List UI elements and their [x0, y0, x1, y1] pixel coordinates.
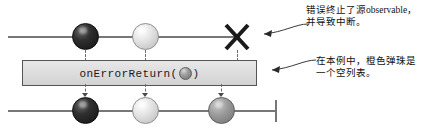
completion-bar: [275, 100, 277, 122]
result-marble-orange: [208, 97, 235, 124]
operator-label-suffix: ): [193, 68, 200, 80]
error-note-line-1: 错误终止了源observable，: [306, 4, 417, 16]
source-marble-light: [132, 23, 159, 50]
operator-label: onErrorReturn(): [79, 67, 199, 80]
error-note-leader-line: [250, 22, 310, 44]
error-note-line-2: 并导致中断。: [306, 16, 417, 28]
orange-marble-note-line-1: 在本例中，橙色弹珠是: [316, 55, 416, 67]
orange-marble-note: 在本例中，橙色弹珠是 一个空列表。: [316, 55, 416, 79]
operator-box: onErrorReturn(): [22, 60, 257, 86]
operator-inline-marble: [179, 67, 192, 80]
marble-diagram: onErrorReturn() 错误终止了源observable， 并导致中断。…: [0, 0, 434, 131]
result-marble-dark: [72, 97, 99, 124]
orange-marble-note-leader-line: [258, 58, 318, 78]
error-note: 错误终止了源observable， 并导致中断。: [306, 4, 417, 28]
error-x-icon: [223, 22, 251, 52]
source-marble-dark: [72, 23, 99, 50]
orange-marble-note-line-2: 一个空列表。: [316, 67, 416, 79]
result-marble-light: [132, 97, 159, 124]
operator-label-prefix: onErrorReturn(: [79, 68, 177, 80]
source-timeline-axis: [8, 36, 240, 38]
